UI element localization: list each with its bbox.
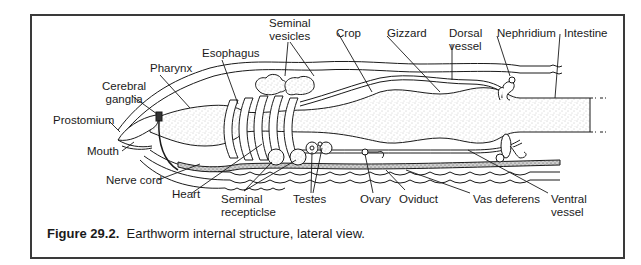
label-nerve-cord: Nerve cord: [106, 174, 162, 187]
figure-number: Figure 29.2.: [47, 226, 119, 241]
testes: [306, 142, 332, 154]
label-intestine: Intestine: [564, 27, 607, 40]
label-cerebral-ganglia-line1: Cerebral: [102, 80, 146, 93]
label-esophagus: Esophagus: [202, 47, 260, 60]
seminal-vesicles: [256, 74, 315, 94]
label-crop: Crop: [336, 27, 361, 40]
label-nephridium: Nephridium: [497, 27, 556, 40]
label-testes: Testes: [293, 193, 326, 206]
label-pharynx: Pharynx: [150, 62, 192, 75]
label-dorsal-vessel-line2: vessel: [449, 40, 482, 53]
label-gizzard: Gizzard: [387, 27, 427, 40]
label-seminal-recepticlse-line2: recepticlse: [221, 206, 276, 219]
label-prostomium: Prostomium: [53, 114, 114, 127]
label-mouth: Mouth: [87, 145, 119, 158]
label-oviduct: Oviduct: [399, 193, 438, 206]
label-ovary: Ovary: [360, 193, 391, 206]
label-dorsal-vessel: Dorsal vessel: [449, 27, 482, 53]
label-seminal-vesicles-line2: vesicles: [269, 30, 311, 43]
label-cerebral-ganglia-line2: ganglia: [102, 93, 146, 106]
label-seminal-recepticlse: Seminal recepticlse: [221, 193, 276, 219]
label-seminal-vesicles: Seminal vesicles: [269, 17, 311, 43]
digestive-tract: [150, 88, 590, 146]
label-vas-deferens: Vas deferens: [473, 193, 540, 206]
figure-caption: Figure 29.2. Earthworm internal structur…: [47, 226, 365, 241]
label-seminal-recepticlse-line1: Seminal: [221, 193, 276, 206]
figure-caption-text: Earthworm internal structure, lateral vi…: [126, 226, 364, 241]
label-ventral-vessel-line2: vessel: [551, 206, 587, 219]
label-seminal-vesicles-line1: Seminal: [269, 17, 311, 30]
label-ventral-vessel-line1: Ventral: [551, 193, 587, 206]
nerve-cord: [178, 160, 560, 172]
label-cerebral-ganglia: Cerebral ganglia: [102, 80, 146, 106]
label-ventral-vessel: Ventral vessel: [551, 193, 587, 219]
label-heart: Heart: [172, 188, 200, 201]
label-dorsal-vessel-line1: Dorsal: [449, 27, 482, 40]
